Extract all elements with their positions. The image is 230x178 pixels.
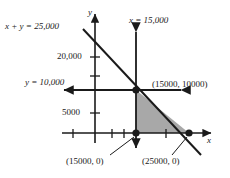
y-tick-label-5000: 5000 bbox=[62, 108, 80, 117]
leader-line-x15000 bbox=[110, 137, 134, 155]
leader-line-x25000 bbox=[172, 137, 187, 155]
vertex-label-x15000: (15000, 0) bbox=[66, 157, 104, 166]
shaded-feasible-region bbox=[136, 90, 189, 133]
horizontal-constraint-label: y = 10,000 bbox=[25, 78, 64, 87]
vertical-constraint-label: x = 15,000 bbox=[129, 16, 168, 25]
vertex-dot-intersection bbox=[132, 86, 139, 93]
vertex-label-intersection: (15000, 10000) bbox=[152, 80, 208, 89]
graph-figure: y x x + y = 25,000 x = 15,000 y = 10,000… bbox=[0, 0, 230, 178]
y-axis-label: y bbox=[88, 8, 92, 17]
y-tick-label-20000: 20,000 bbox=[57, 52, 82, 61]
vertex-dot-x15000 bbox=[132, 129, 139, 136]
diagonal-constraint-line bbox=[83, 29, 201, 155]
diagonal-constraint-label: x + y = 25,000 bbox=[5, 22, 59, 31]
vertex-dot-x25000 bbox=[185, 129, 192, 136]
vertex-label-x25000: (25000, 0) bbox=[142, 157, 180, 166]
x-axis-label: x bbox=[207, 136, 211, 145]
